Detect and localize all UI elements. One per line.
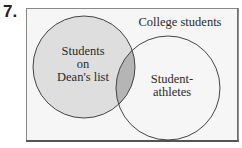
venn-diagram: College students Students on Dean's list… [0, 0, 242, 148]
student-athletes-label-line-2: athletes [153, 85, 191, 99]
deans-list-label-line-3: Dean's list [57, 70, 109, 84]
student-athletes-label-line-1: Student- [151, 72, 193, 86]
universe-label: College students [139, 15, 222, 29]
deans-list-label-line-1: Students [61, 44, 104, 58]
deans-list-label-line-2: on [77, 57, 90, 71]
